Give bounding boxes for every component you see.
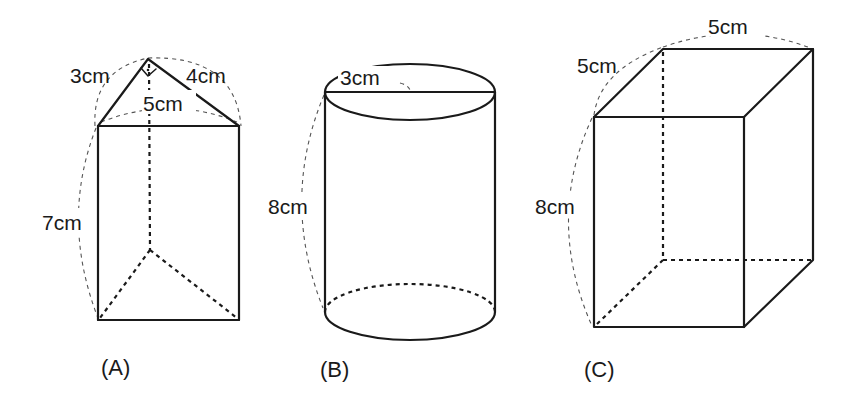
right-angle-dot <box>147 69 150 72</box>
front-face <box>594 117 744 327</box>
figure-a-triangular-prism: 3cm 4cm 5cm 7cm (A) <box>42 58 241 380</box>
label-5cm: 5cm <box>143 92 183 115</box>
hidden-bottom-left <box>100 250 150 318</box>
figure-b-cylinder: 3cm 8cm (B) <box>266 64 495 382</box>
label-4cm: 4cm <box>186 64 226 87</box>
label-side-5cm: 5cm <box>577 54 617 77</box>
dim-arc-3cm <box>400 83 410 90</box>
caption-b: (B) <box>320 357 349 382</box>
top-face <box>594 49 813 117</box>
right-face-edges <box>744 49 813 327</box>
caption-c: (C) <box>584 357 615 382</box>
hidden-bottom-side-edge <box>596 260 663 325</box>
label-3cm: 3cm <box>340 66 380 89</box>
label-8cm: 8cm <box>535 195 575 218</box>
label-7cm: 7cm <box>42 211 82 234</box>
solids-diagram: 3cm 4cm 5cm 7cm (A) 3cm 8cm (B) 5cm <box>0 0 852 411</box>
caption-a: (A) <box>101 355 130 380</box>
label-top-5cm: 5cm <box>708 15 748 38</box>
bottom-front-arc <box>325 312 495 340</box>
figure-c-rectangular-prism: 5cm 5cm 8cm (C) <box>534 12 813 382</box>
bottom-back-arc <box>325 284 495 312</box>
label-3cm: 3cm <box>70 64 110 87</box>
dim-arc-8cm <box>569 118 593 326</box>
hidden-bottom-right <box>150 250 237 318</box>
label-8cm: 8cm <box>268 195 308 218</box>
